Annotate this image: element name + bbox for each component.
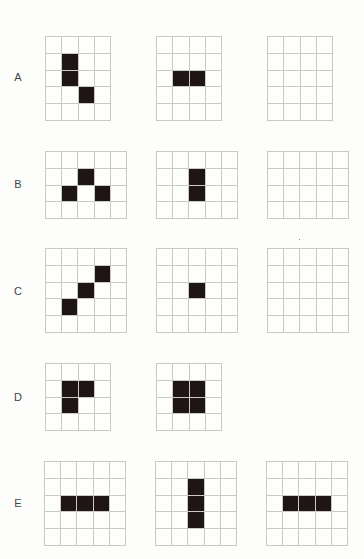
grid-b-2 xyxy=(156,151,238,219)
filled-cell xyxy=(78,169,94,186)
empty-cell xyxy=(284,37,300,54)
empty-cell xyxy=(300,169,316,186)
empty-cell xyxy=(284,87,300,104)
empty-cell xyxy=(206,364,222,381)
empty-cell xyxy=(173,186,189,203)
empty-cell xyxy=(79,104,95,121)
empty-cell xyxy=(267,529,283,546)
empty-cell xyxy=(333,152,349,169)
empty-cell xyxy=(284,104,300,121)
filled-cell xyxy=(62,299,78,316)
empty-cell xyxy=(332,479,348,496)
empty-cell xyxy=(157,202,173,219)
filled-cell xyxy=(299,496,315,513)
filled-cell xyxy=(61,496,77,513)
empty-cell xyxy=(222,202,238,219)
empty-cell xyxy=(268,37,284,54)
empty-cell xyxy=(283,529,299,546)
empty-cell xyxy=(205,462,221,479)
empty-cell xyxy=(284,202,300,219)
grid-c-2 xyxy=(156,248,238,333)
empty-cell xyxy=(268,186,284,203)
empty-cell xyxy=(79,414,95,431)
empty-cell xyxy=(95,202,111,219)
empty-cell xyxy=(316,512,332,529)
empty-cell xyxy=(190,87,206,104)
empty-cell xyxy=(78,202,94,219)
empty-cell xyxy=(78,249,94,266)
filled-cell xyxy=(62,381,78,398)
filled-cell xyxy=(78,283,94,300)
empty-cell xyxy=(317,202,333,219)
empty-cell xyxy=(111,249,127,266)
grid-e-2 xyxy=(155,461,237,546)
empty-cell xyxy=(283,479,299,496)
row-label-c: C xyxy=(11,285,25,297)
empty-cell xyxy=(189,316,205,333)
row-label-a: A xyxy=(11,71,25,83)
empty-cell xyxy=(172,512,188,529)
stray-speck xyxy=(299,239,300,240)
empty-cell xyxy=(268,87,284,104)
empty-cell xyxy=(156,462,172,479)
empty-cell xyxy=(206,316,222,333)
grid-a-1 xyxy=(45,36,111,121)
empty-cell xyxy=(46,266,62,283)
empty-cell xyxy=(173,104,189,121)
empty-cell xyxy=(317,249,333,266)
empty-cell xyxy=(222,266,238,283)
empty-cell xyxy=(46,87,62,104)
empty-cell xyxy=(62,37,78,54)
empty-cell xyxy=(268,152,284,169)
empty-cell xyxy=(332,462,348,479)
filled-cell xyxy=(190,398,206,415)
empty-cell xyxy=(94,529,110,546)
empty-cell xyxy=(95,398,111,415)
empty-cell xyxy=(317,152,333,169)
empty-cell xyxy=(300,316,316,333)
empty-cell xyxy=(46,152,62,169)
empty-cell xyxy=(173,37,189,54)
empty-cell xyxy=(268,299,284,316)
empty-cell xyxy=(157,249,173,266)
empty-cell xyxy=(46,71,62,88)
empty-cell xyxy=(332,496,348,513)
empty-cell xyxy=(157,186,173,203)
filled-cell xyxy=(189,283,205,300)
empty-cell xyxy=(173,299,189,316)
empty-cell xyxy=(300,266,316,283)
empty-cell xyxy=(172,529,188,546)
filled-cell xyxy=(189,169,205,186)
empty-cell xyxy=(62,283,78,300)
empty-cell xyxy=(61,512,77,529)
empty-cell xyxy=(110,462,126,479)
empty-cell xyxy=(46,37,62,54)
empty-cell xyxy=(111,152,127,169)
empty-cell xyxy=(206,249,222,266)
grid-e-1 xyxy=(44,461,126,546)
empty-cell xyxy=(317,283,333,300)
empty-cell xyxy=(61,462,77,479)
empty-cell xyxy=(173,364,189,381)
empty-cell xyxy=(188,529,204,546)
empty-cell xyxy=(111,316,127,333)
empty-cell xyxy=(299,512,315,529)
empty-cell xyxy=(333,283,349,300)
filled-cell xyxy=(188,512,204,529)
empty-cell xyxy=(190,104,206,121)
empty-cell xyxy=(173,202,189,219)
empty-cell xyxy=(221,529,237,546)
empty-cell xyxy=(205,479,221,496)
filled-cell xyxy=(173,71,189,88)
empty-cell xyxy=(222,316,238,333)
empty-cell xyxy=(157,316,173,333)
empty-cell xyxy=(268,266,284,283)
empty-cell xyxy=(284,152,300,169)
empty-cell xyxy=(46,381,62,398)
empty-cell xyxy=(284,169,300,186)
filled-cell xyxy=(95,266,111,283)
empty-cell xyxy=(62,87,78,104)
empty-cell xyxy=(45,479,61,496)
empty-cell xyxy=(222,186,238,203)
empty-cell xyxy=(284,299,300,316)
